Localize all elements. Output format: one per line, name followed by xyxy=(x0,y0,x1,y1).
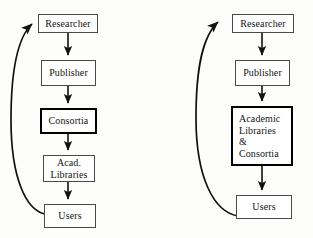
node-label: Researcher xyxy=(45,18,90,30)
node-label: Publisher xyxy=(243,67,282,79)
node-label: Acad. Libraries xyxy=(51,157,88,180)
node-label: Academic Libraries & Consortia xyxy=(239,113,280,159)
node-consortia-left[interactable]: Consortia xyxy=(40,108,97,134)
node-publisher-right[interactable]: Publisher xyxy=(235,60,290,86)
node-researcher-left[interactable]: Researcher xyxy=(38,14,98,33)
node-users-right[interactable]: Users xyxy=(236,195,292,219)
node-label: Consortia xyxy=(49,115,89,127)
node-publisher-left[interactable]: Publisher xyxy=(41,60,96,86)
panel-left: Researcher Publisher Consortia Acad. Lib… xyxy=(0,0,157,238)
node-researcher-right[interactable]: Researcher xyxy=(232,14,294,33)
node-label: Researcher xyxy=(240,18,285,30)
panel-right: Researcher Publisher Academic Libraries … xyxy=(157,0,313,238)
node-academic-libraries-left[interactable]: Acad. Libraries xyxy=(43,155,95,182)
node-label: Users xyxy=(58,210,81,222)
node-label: Publisher xyxy=(49,67,88,79)
node-label: Users xyxy=(252,201,275,213)
node-users-left[interactable]: Users xyxy=(44,204,96,228)
node-academic-libraries-consortia-right[interactable]: Academic Libraries & Consortia xyxy=(231,106,293,166)
diagram-canvas: Researcher Publisher Consortia Acad. Lib… xyxy=(0,0,313,238)
